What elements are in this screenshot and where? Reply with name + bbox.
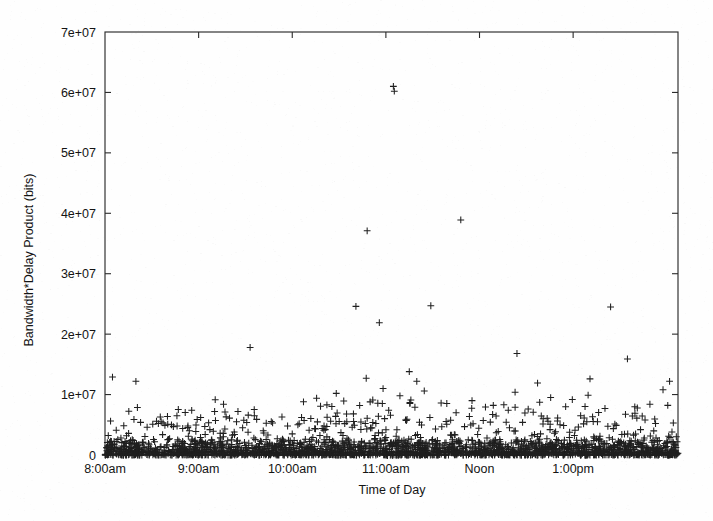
x-axis-tick-labels: 8:00am9:00am10:00am11:00amNoon1:00pm: [84, 462, 594, 476]
x-tick-label: 10:00am: [268, 462, 317, 476]
data-point-group: [102, 83, 682, 458]
x-axis-title: Time of Day: [359, 483, 427, 497]
x-tick-label: Noon: [465, 462, 495, 476]
figure-container: 01e+072e+073e+074e+075e+076e+077e+07 8:0…: [0, 0, 713, 521]
x-tick-label: 8:00am: [84, 462, 126, 476]
x-tick-label: 11:00am: [362, 462, 410, 476]
y-tick-label: 7e+07: [61, 26, 96, 40]
x-tick-label: 9:00am: [178, 462, 220, 476]
x-tick-label: 1:00pm: [552, 462, 594, 476]
y-axis-tick-labels: 01e+072e+073e+074e+075e+076e+077e+07: [61, 26, 96, 463]
scatter-plot: 01e+072e+073e+074e+075e+076e+077e+07 8:0…: [0, 0, 713, 521]
y-tick-label: 5e+07: [61, 146, 96, 160]
y-tick-label: 6e+07: [61, 86, 96, 100]
y-axis-title: Bandwidth*Delay Product (bits): [22, 174, 36, 347]
y-tick-label: 2e+07: [61, 328, 96, 342]
y-tick-label: 0: [89, 449, 96, 463]
x-axis-ticks: [199, 32, 574, 455]
y-axis-ticks: [105, 92, 678, 394]
y-tick-label: 4e+07: [61, 207, 96, 221]
y-tick-label: 1e+07: [61, 388, 96, 402]
plot-frame: [105, 32, 678, 455]
y-tick-label: 3e+07: [61, 267, 96, 281]
